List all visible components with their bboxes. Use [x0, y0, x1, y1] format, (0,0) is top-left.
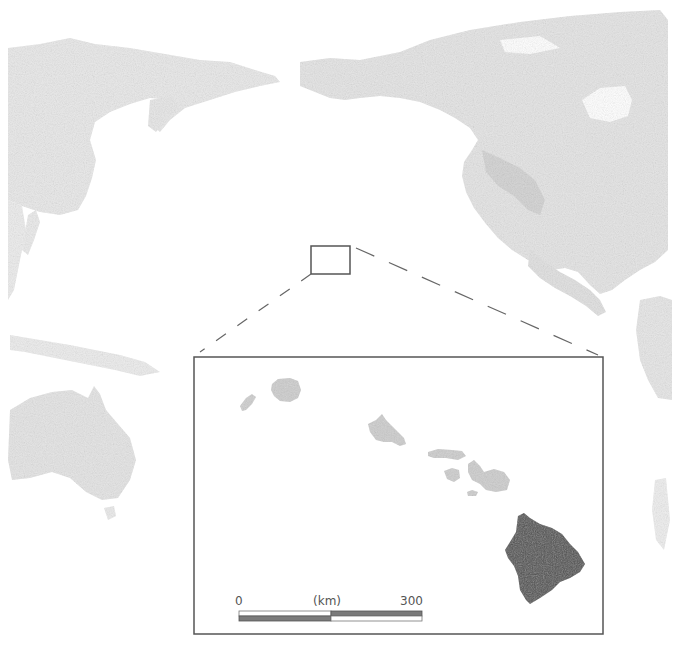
scale-bar-bottom-left [239, 616, 331, 621]
landmass-tasmania [104, 506, 116, 520]
scale-bar-top-right [331, 611, 422, 616]
landmass-south-america-lower [652, 478, 670, 550]
map-figure [0, 0, 675, 650]
connector-line-left [200, 274, 311, 352]
selection-box [311, 246, 350, 274]
landmass-indonesia [10, 335, 160, 376]
landmass-australia [8, 386, 136, 500]
landmass-south-america [636, 296, 672, 400]
scale-bar [239, 611, 422, 621]
scale-label-unit: (km) [313, 595, 341, 607]
scale-bar-top-left [239, 611, 331, 616]
scale-label-start: 0 [235, 595, 243, 607]
scale-label-end: 300 [400, 595, 423, 607]
landmass-asia [8, 38, 280, 215]
scale-bar-bottom-right [331, 616, 422, 621]
